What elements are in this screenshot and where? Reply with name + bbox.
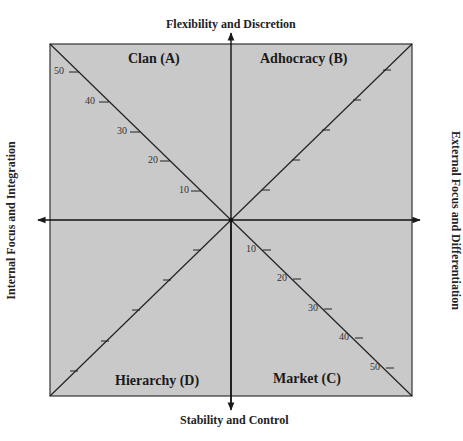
quadrant-clan: Clan (A) bbox=[128, 51, 180, 67]
scale-a-50: 50 bbox=[54, 65, 64, 76]
scale-a-30: 30 bbox=[117, 125, 127, 136]
scale-a-40: 40 bbox=[85, 95, 95, 106]
axis-label-left: Internal Focus and Integration bbox=[4, 136, 19, 306]
diagram-canvas bbox=[0, 0, 463, 441]
scale-a-10: 10 bbox=[179, 184, 189, 195]
scale-a-20: 20 bbox=[148, 154, 158, 165]
quadrant-adhocracy: Adhocracy (B) bbox=[260, 51, 348, 67]
scale-c-30: 30 bbox=[308, 302, 318, 313]
axis-label-bottom: Stability and Control bbox=[180, 413, 288, 428]
quadrant-hierarchy: Hierarchy (D) bbox=[115, 373, 199, 389]
axis-label-right: External Focus and Differentiation bbox=[448, 116, 463, 326]
scale-c-10: 10 bbox=[246, 243, 256, 254]
scale-c-50: 50 bbox=[370, 361, 380, 372]
origin-point bbox=[229, 218, 233, 222]
quadrant-market: Market (C) bbox=[273, 371, 341, 387]
scale-c-20: 20 bbox=[277, 272, 287, 283]
scale-c-40: 40 bbox=[339, 331, 349, 342]
axis-label-top: Flexibility and Discretion bbox=[166, 17, 296, 32]
